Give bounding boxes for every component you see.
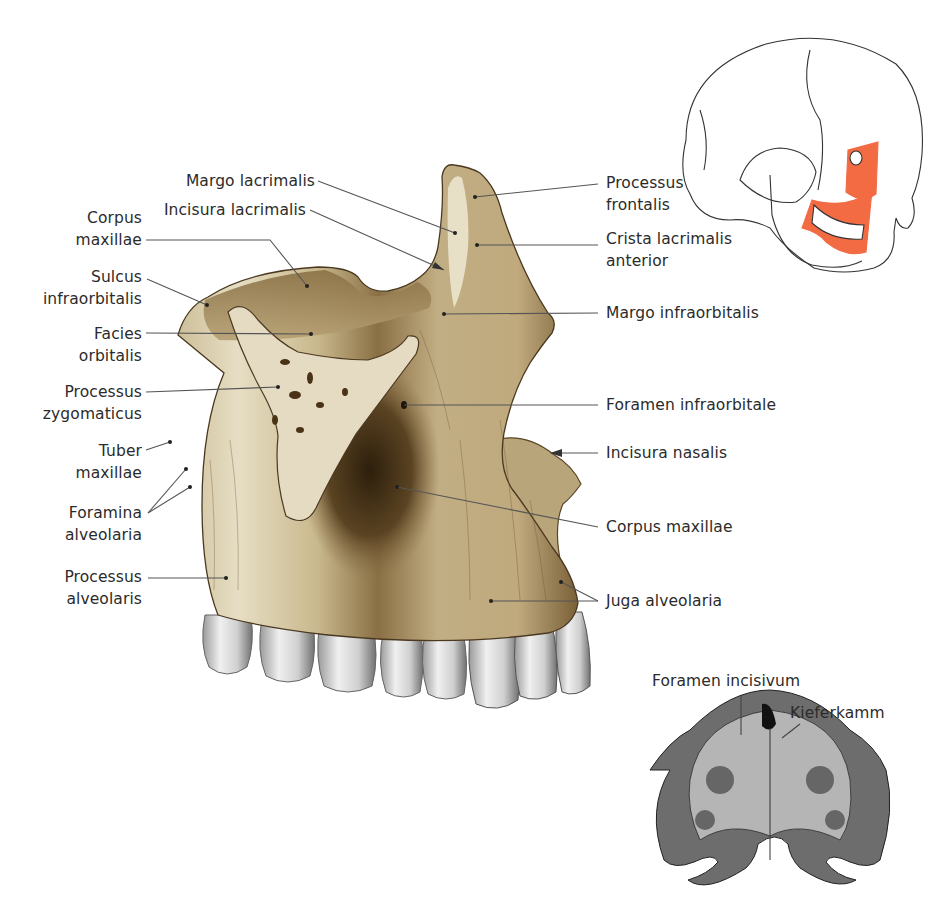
label-processus-alveolaris: Processus alveolaris	[20, 566, 142, 610]
label-text: Incisura nasalis	[606, 442, 727, 464]
label-juga-alveolaria: Juga alveolaria	[606, 590, 722, 612]
label-text: frontalis	[606, 194, 684, 216]
label-text: alveolaris	[20, 588, 142, 610]
label-text: maxillae	[20, 229, 142, 251]
label-text: Sulcus	[20, 266, 142, 288]
label-text: Processus	[606, 172, 684, 194]
label-text: Processus	[20, 381, 142, 403]
label-foramina-alveolaria: Foramina alveolaria	[20, 502, 142, 546]
label-text: Corpus maxillae	[606, 516, 733, 538]
label-text: anterior	[606, 250, 732, 272]
label-text: Tuber	[20, 440, 142, 462]
label-text: Crista lacrimalis	[606, 228, 732, 250]
label-text: Kieferkamm	[790, 702, 885, 724]
label-margo-infraorbitalis: Margo infraorbitalis	[606, 302, 759, 324]
label-foramen-incisivum: Foramen incisivum	[652, 670, 800, 692]
label-foramen-infraorbitale: Foramen infraorbitale	[606, 394, 776, 416]
label-text: Corpus	[20, 207, 142, 229]
label-tuber-maxillae: Tuber maxillae	[20, 440, 142, 484]
label-corpus-maxillae-lower: Corpus maxillae	[606, 516, 733, 538]
label-text: Processus	[20, 566, 142, 588]
label-crista-lacrimalis-anterior: Crista lacrimalis anterior	[606, 228, 732, 272]
label-incisura-nasalis: Incisura nasalis	[606, 442, 727, 464]
label-text: Margo infraorbitalis	[606, 302, 759, 324]
label-corpus-maxillae-upper: Corpus maxillae	[20, 207, 142, 251]
label-text: alveolaria	[20, 524, 142, 546]
label-text: infraorbitalis	[20, 288, 142, 310]
label-text: Margo lacrimalis	[150, 170, 315, 192]
label-text: Foramen incisivum	[652, 670, 800, 692]
label-text: Foramina	[20, 502, 142, 524]
label-kieferkamm: Kieferkamm	[790, 702, 885, 724]
label-processus-zygomaticus: Processus zygomaticus	[20, 381, 142, 425]
label-incisura-lacrimalis: Incisura lacrimalis	[130, 199, 306, 221]
label-text: Incisura lacrimalis	[130, 199, 306, 221]
label-text: Facies	[20, 323, 142, 345]
label-text: Juga alveolaria	[606, 590, 722, 612]
label-sulcus-infraorbitalis: Sulcus infraorbitalis	[20, 266, 142, 310]
label-facies-orbitalis: Facies orbitalis	[20, 323, 142, 367]
maxilla-bone	[178, 165, 590, 708]
label-text: maxillae	[20, 462, 142, 484]
label-text: Foramen infraorbitale	[606, 394, 776, 416]
label-text: zygomaticus	[20, 403, 142, 425]
label-margo-lacrimalis: Margo lacrimalis	[150, 170, 315, 192]
label-text: orbitalis	[20, 345, 142, 367]
label-processus-frontalis: Processus frontalis	[606, 172, 684, 216]
